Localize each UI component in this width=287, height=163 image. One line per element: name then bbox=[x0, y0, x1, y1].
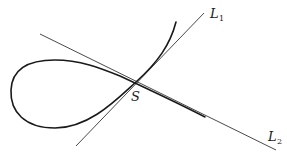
point-label-s: S bbox=[131, 89, 140, 104]
tangent-line-l2 bbox=[40, 34, 276, 150]
line-label-l2: L 2 bbox=[267, 129, 282, 146]
tangent-lines-diagram: S L 1 L 2 bbox=[0, 0, 287, 163]
svg-text:1: 1 bbox=[219, 14, 224, 23]
svg-text:2: 2 bbox=[277, 137, 282, 146]
svg-text:L: L bbox=[267, 129, 277, 144]
tangent-line-l1 bbox=[76, 13, 204, 146]
loop-curve bbox=[11, 22, 205, 128]
svg-text:L: L bbox=[209, 6, 219, 21]
line-label-l1: L 1 bbox=[209, 6, 224, 23]
